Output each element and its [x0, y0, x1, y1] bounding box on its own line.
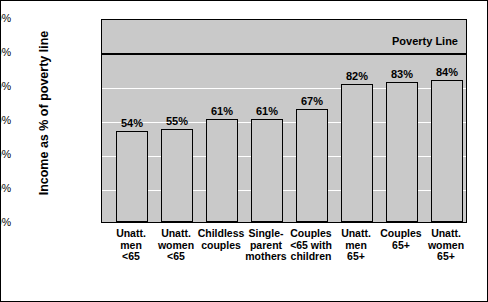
bar-value-unatt-women-65plus: 84% — [432, 66, 462, 78]
bar-couples-65plus[interactable]: 83% — [386, 82, 418, 222]
bar-unatt-women-65plus[interactable]: 84% — [431, 80, 463, 222]
x-label-line: 65+ — [327, 251, 385, 263]
plot-area: Poverty Line 54% 55% 61% 61% 67% 82% 83%… — [101, 19, 467, 223]
poverty-line — [102, 53, 466, 55]
poverty-line-label: Poverty Line — [392, 35, 458, 47]
x-label-line: Unatt. — [417, 228, 475, 240]
bar-value-couples-u65-children: 67% — [297, 95, 327, 107]
bar-unatt-women-u65[interactable]: 55% — [161, 129, 193, 222]
bar-childless-couples[interactable]: 61% — [206, 119, 238, 222]
bar-value-unatt-men-u65: 54% — [117, 117, 147, 129]
chart-frame: Income as % of poverty line 0% 20% 40% 6… — [0, 0, 488, 302]
bar-value-childless-couples: 61% — [207, 105, 237, 117]
bar-value-unatt-men-65plus: 82% — [342, 70, 372, 82]
x-label-line: 65+ — [417, 251, 475, 263]
bar-single-parent-mothers[interactable]: 61% — [251, 119, 283, 222]
y-axis-title: Income as % of poverty line — [37, 8, 51, 218]
bar-value-couples-65plus: 83% — [387, 68, 417, 80]
x-label-line: <65 — [147, 251, 205, 263]
bar-unatt-men-u65[interactable]: 54% — [116, 131, 148, 222]
bar-unatt-men-65plus[interactable]: 82% — [341, 84, 373, 222]
bar-value-single-parent-mothers: 61% — [252, 105, 282, 117]
bar-value-unatt-women-u65: 55% — [162, 115, 192, 127]
x-label-unatt-women-65plus: Unatt. women 65+ — [417, 228, 475, 263]
bar-couples-u65-children[interactable]: 67% — [296, 109, 328, 222]
